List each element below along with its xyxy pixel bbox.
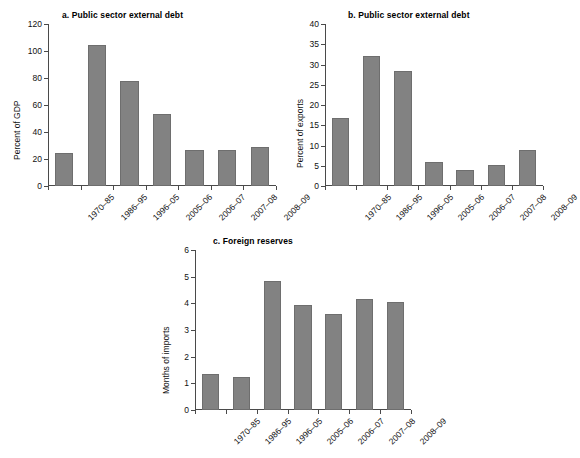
chart-c-bar [387,302,404,410]
chart-c-y-tick-label: 3 [184,325,189,335]
chart-c-bar [356,299,373,410]
chart-a-bar [218,150,236,186]
chart-panel-c: c. Foreign reserves Months of imports 01… [145,232,435,458]
chart-a-y-tick [44,105,48,106]
chart-b-bar [425,162,442,186]
chart-c-y-axis [195,250,196,410]
chart-b-y-tick-label: 30 [310,60,319,70]
chart-a-y-tick-label: 20 [33,154,42,164]
chart-a-x-tick-label: 2007–08 [249,192,279,222]
chart-a-y-tick-label: 100 [28,46,42,56]
chart-a-x-tick [146,186,147,190]
chart-a-x-tick [178,186,179,190]
chart-c-x-tick-label: 2007–08 [386,416,416,446]
chart-b-y-tick-label: 0 [314,181,319,191]
chart-a-y-tick-label: 40 [33,127,42,137]
chart-a-y-tick-label: 80 [33,73,42,83]
chart-a-x-tick [211,186,212,190]
chart-b-x-tick [418,186,419,190]
chart-b-bar [519,150,536,186]
chart-c-x-tick-label: 2005–06 [325,416,355,446]
chart-c-x-tick [318,410,319,414]
chart-b-y-tick [321,24,325,25]
chart-a-x-tick-label: 1986–95 [119,192,149,222]
chart-c-title: c. Foreign reserves [213,236,293,246]
chart-a-y-tick [44,51,48,52]
chart-a-plot-area: 0204060801001201970–851986–951996–052005… [48,24,276,186]
chart-c-bar [325,314,342,410]
chart-c-bar [294,305,311,410]
chart-c-x-tick [380,410,381,414]
chart-c-plot-area: 01234561970–851986–951996–052005–062006–… [195,250,411,410]
chart-b-x-tick [481,186,482,190]
chart-panel-b: b. Public sector external debt Percent o… [283,0,561,230]
chart-b-x-tick-label: 2005–06 [456,192,486,222]
chart-b-x-tick [450,186,451,190]
chart-c-y-tick-label: 1 [184,378,189,388]
chart-c-x-tick [226,410,227,414]
chart-b-y-tick [321,65,325,66]
chart-a-x-tick [81,186,82,190]
chart-b-bar [394,71,411,186]
chart-c-x-tick [288,410,289,414]
chart-b-bar [456,170,473,186]
chart-b-y-tick [321,146,325,147]
chart-c-y-tick [191,330,195,331]
chart-a-title: a. Public sector external debt [62,10,183,20]
chart-b-y-tick [321,44,325,45]
chart-b-y-tick [321,85,325,86]
chart-c-x-tick [195,410,196,414]
chart-c-x-tick [349,410,350,414]
chart-b-y-tick-label: 25 [310,80,319,90]
chart-b-y-tick-label: 35 [310,39,319,49]
chart-c-x-tick-label: 1970–85 [232,416,262,446]
chart-c-x-tick [257,410,258,414]
chart-b-title: b. Public sector external debt [348,10,470,20]
chart-a-bar [153,114,171,186]
chart-b-bar [488,165,505,186]
chart-c-y-tick [191,383,195,384]
chart-b-x-tick [512,186,513,190]
chart-b-x-tick [325,186,326,190]
chart-b-y-tick-label: 40 [310,19,319,29]
chart-c-y-tick-label: 6 [184,245,189,255]
chart-b-x-tick [543,186,544,190]
chart-c-bar [264,281,281,410]
chart-c-y-tick-label: 4 [184,298,189,308]
chart-a-x-tick [113,186,114,190]
chart-a-x-tick [48,186,49,190]
chart-c-x-tick-label: 1996–05 [294,416,324,446]
chart-b-y-axis [325,24,326,186]
chart-b-x-tick [356,186,357,190]
chart-b-bar [332,118,349,186]
chart-a-x-tick [243,186,244,190]
chart-a-bar [120,81,138,186]
chart-panel-a: a. Public sector external debt Percent o… [0,0,288,230]
chart-c-y-tick-label: 2 [184,352,189,362]
chart-b-x-tick-label: 1986–95 [393,192,423,222]
chart-c-y-tick-label: 0 [184,405,189,415]
chart-b-x-tick-label: 1996–05 [425,192,455,222]
chart-b-y-tick-label: 20 [310,100,319,110]
chart-b-x-tick [387,186,388,190]
chart-b-y-tick [321,105,325,106]
chart-b-x-tick-label: 2007–08 [518,192,548,222]
chart-c-x-tick [411,410,412,414]
chart-a-x-tick [276,186,277,190]
chart-b-y-tick-label: 15 [310,120,319,130]
chart-a-bar [88,45,106,186]
chart-a-y-tick [44,132,48,133]
chart-c-y-tick [191,303,195,304]
chart-a-y-axis [48,24,49,186]
chart-a-x-tick-label: 2005–06 [184,192,214,222]
chart-b-y-tick [321,166,325,167]
chart-b-y-axis-label: Percent of exports [295,99,305,168]
chart-c-bar [233,377,250,410]
chart-a-y-tick-label: 0 [37,181,42,191]
chart-b-x-tick-label: 1970–85 [362,192,392,222]
chart-b-plot-area: 05101520253035401970–851986–951996–05200… [325,24,543,186]
chart-a-x-tick-label: 2006–07 [216,192,246,222]
chart-c-y-tick [191,357,195,358]
chart-b-y-tick-label: 10 [310,141,319,151]
